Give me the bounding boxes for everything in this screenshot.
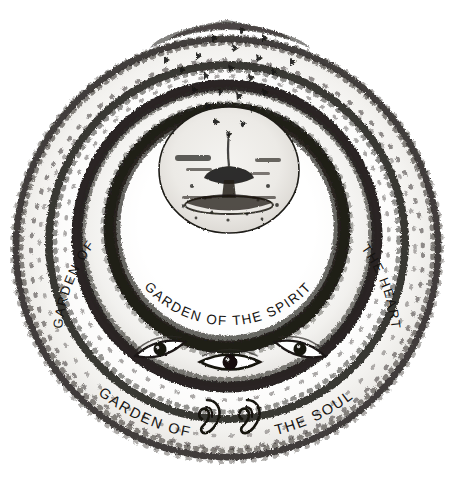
garden-diagram: GARDEN OF THE SPIRIT GARDEN OF THE HEART… (0, 0, 454, 478)
drawing-canvas: GARDEN OF THE SPIRIT GARDEN OF THE HEART… (0, 0, 454, 478)
